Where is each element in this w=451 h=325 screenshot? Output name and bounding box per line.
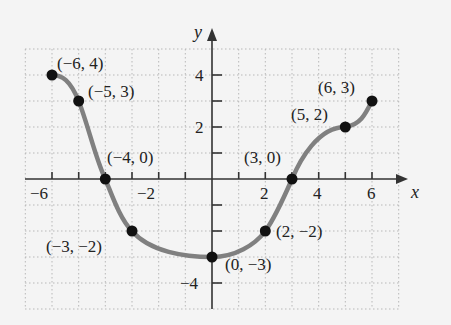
x-tick-6: 6 <box>367 184 376 203</box>
x-axis-label: x <box>410 182 419 202</box>
label-point-3-0: (3, 0) <box>244 148 281 167</box>
y-axis-label: y <box>192 22 202 42</box>
y-axis <box>212 40 222 309</box>
point-3-0 <box>287 174 298 185</box>
y-tick-neg4: −4 <box>180 274 199 293</box>
point-6-3 <box>367 96 378 107</box>
label-point-5-2: (5, 2) <box>291 105 328 124</box>
label-point-neg6-4: (−6, 4) <box>57 54 103 73</box>
label-point-neg3-neg2: (−3, −2) <box>46 237 102 256</box>
y-tick-4: 4 <box>195 66 204 85</box>
y-axis-arrow-icon <box>207 28 217 41</box>
point-neg6-4 <box>47 70 58 81</box>
x-tick-neg6: −6 <box>30 184 48 203</box>
point-2-neg2 <box>260 226 271 237</box>
label-point-0-neg3: (0, −3) <box>225 255 271 274</box>
x-axis-arrow-icon <box>396 174 408 184</box>
point-neg4-0 <box>100 174 111 185</box>
label-point-neg5-3: (−5, 3) <box>88 82 134 101</box>
point-0-neg3 <box>207 252 218 263</box>
x-tick-neg2: −2 <box>137 184 155 203</box>
label-point-6-3: (6, 3) <box>318 78 355 97</box>
point-neg5-3 <box>73 96 84 107</box>
x-tick-4: 4 <box>313 184 322 203</box>
y-tick-2: 2 <box>195 118 204 137</box>
x-tick-2: 2 <box>260 184 269 203</box>
label-point-2-neg2: (2, −2) <box>276 222 322 241</box>
point-neg3-neg2 <box>127 226 138 237</box>
point-5-2 <box>340 122 351 133</box>
function-graph: (−6, 4) (−5, 3) (−4, 0) (−3, −2) (0, −3)… <box>0 0 451 325</box>
label-point-neg4-0: (−4, 0) <box>107 148 153 167</box>
